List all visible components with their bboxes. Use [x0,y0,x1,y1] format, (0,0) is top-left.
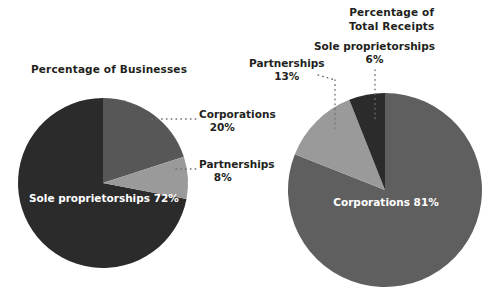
right-label-partnerships-value: 13% [249,70,325,83]
left-label-corporations-name: Corporations [199,108,276,120]
right-label-corporations-name: Corporations [333,196,410,208]
left-label-corporations-value: 20% [199,121,276,134]
left-pie-chart [18,98,188,268]
left-label-corporations: Corporations 20% [199,108,276,134]
left-label-partnerships-name: Partnerships [199,158,275,170]
right-chart-title-line1: Percentage of [349,6,434,18]
right-label-corporations-value: 81% [414,196,439,208]
left-label-partnerships: Partnerships 8% [199,158,275,184]
right-label-sole-proprietorships-name: Sole proprietorships [314,40,435,52]
left-label-sole-proprietorships-name: Sole proprietorships [29,192,150,204]
right-label-partnerships-name: Partnerships [249,57,325,69]
pie-chart-figure: Percentage of Businesses Percentage of T… [0,0,495,290]
right-pie-chart [288,93,482,287]
right-chart-title: Percentage of Total Receipts [349,5,434,33]
right-label-sole-proprietorships-value: 6% [314,53,435,66]
left-chart-title: Percentage of Businesses [31,63,187,76]
right-label-corporations: Corporations 81% [330,196,442,209]
right-label-partnerships: Partnerships 13% [249,57,325,83]
right-chart-title-line2: Total Receipts [349,20,434,32]
right-label-sole-proprietorships: Sole proprietorships 6% [314,40,435,66]
left-label-sole-proprietorships: Sole proprietorships 72% [29,192,159,205]
left-label-sole-proprietorships-value: 72% [154,192,179,204]
left-label-partnerships-value: 8% [199,171,275,184]
